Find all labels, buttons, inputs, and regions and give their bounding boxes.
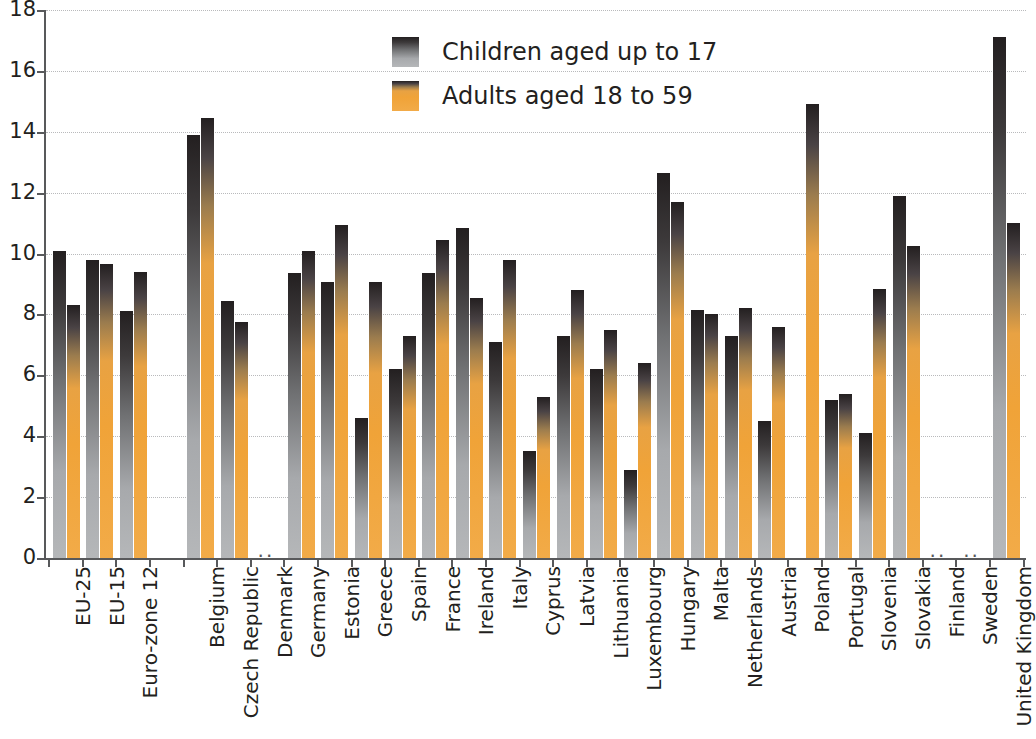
y-axis-tick-label: 0 — [0, 547, 36, 568]
x-axis-label-denmark: Denmark — [275, 566, 295, 658]
legend-swatch-children-icon — [392, 37, 419, 67]
y-axis-tick — [37, 254, 44, 256]
gridline — [46, 132, 1026, 133]
bar-adults — [134, 272, 147, 558]
x-axis-label-malta: Malta — [711, 566, 731, 621]
x-axis-line — [44, 558, 1026, 560]
y-axis-tick — [37, 314, 44, 316]
legend: Children aged up to 17 Adults aged 18 to… — [392, 30, 717, 118]
bar-children — [489, 342, 502, 558]
bar-children — [422, 273, 435, 558]
bar-adults — [369, 282, 382, 558]
x-axis-label-hungary: Hungary — [678, 566, 698, 651]
y-axis-tick-label: 4 — [0, 425, 36, 446]
y-axis-tick-label: 16 — [0, 60, 36, 81]
bar-children — [624, 470, 637, 558]
x-axis-label-lithuania: Lithuania — [611, 566, 631, 659]
bar-children — [389, 369, 402, 558]
bar-children — [725, 336, 738, 558]
x-axis-label-eu-25: EU-25 — [73, 566, 93, 626]
bar-adults — [537, 397, 550, 558]
y-axis-tick-label: 2 — [0, 486, 36, 507]
y-axis-line — [44, 10, 46, 560]
bar-children — [321, 282, 334, 558]
no-data-marker: .. — [258, 544, 275, 556]
y-axis-tick-label: 14 — [0, 121, 36, 142]
legend-label-children: Children aged up to 17 — [442, 39, 717, 65]
bar-adults — [638, 363, 651, 558]
x-axis-label-ireland: Ireland — [476, 566, 496, 635]
x-axis-label-greece: Greece — [375, 566, 395, 637]
bar-children — [590, 369, 603, 558]
no-data-marker: .. — [930, 544, 947, 556]
bar-children — [456, 228, 469, 558]
bar-children — [86, 260, 99, 558]
bar-children — [355, 418, 368, 558]
y-axis-tick — [37, 497, 44, 499]
x-axis-label-eu-15: EU-15 — [107, 566, 127, 626]
bar-adults — [571, 290, 584, 558]
x-axis-label-italy: Italy — [510, 566, 530, 609]
bar-adults — [67, 305, 80, 558]
y-axis-tick-label: 18 — [0, 0, 36, 20]
x-axis-label-united-kingdom: United Kingdom — [1014, 566, 1034, 727]
bar-adults — [671, 202, 684, 558]
bar-adults — [235, 322, 248, 558]
x-axis-label-france: France — [443, 566, 463, 633]
bar-children — [893, 196, 906, 558]
x-axis-label-finland: Finland — [947, 566, 967, 637]
bar-adults — [873, 289, 886, 558]
x-axis-label-sweden: Sweden — [980, 566, 1000, 645]
bar-adults — [907, 246, 920, 558]
bar-children — [523, 451, 536, 558]
legend-label-adults: Adults aged 18 to 59 — [442, 83, 693, 109]
gridline — [46, 10, 1026, 11]
bar-children — [221, 301, 234, 558]
x-axis-category-labels: EU-25EU-15Euro-zone 12BelgiumCzech Repub… — [44, 566, 1026, 739]
y-axis-tick — [37, 558, 44, 560]
x-axis-label-cyprus: Cyprus — [543, 566, 563, 636]
bar-adults — [201, 118, 214, 558]
bar-adults — [839, 394, 852, 558]
bar-children — [657, 173, 670, 558]
y-axis-tick — [37, 375, 44, 377]
bar-adults — [705, 314, 718, 558]
x-axis-label-euro-zone-12: Euro-zone 12 — [140, 566, 160, 698]
bar-adults — [772, 327, 785, 558]
bar-adults — [302, 251, 315, 558]
bar-children — [859, 433, 872, 558]
x-axis-label-slovenia: Slovenia — [879, 566, 899, 651]
bar-adults — [739, 308, 752, 558]
bar-adults — [1007, 223, 1020, 558]
y-axis-tick — [37, 193, 44, 195]
x-axis-label-portugal: Portugal — [846, 566, 866, 649]
x-axis-label-latvia: Latvia — [577, 566, 597, 627]
bar-adults — [335, 225, 348, 558]
bar-children — [557, 336, 570, 558]
y-axis-tick-label: 12 — [0, 182, 36, 203]
bar-children — [691, 310, 704, 558]
x-axis-label-czech-republic: Czech Republic — [241, 566, 261, 718]
bar-adults — [503, 260, 516, 558]
bar-children — [187, 135, 200, 558]
y-axis-tick — [37, 436, 44, 438]
bar-adults — [604, 330, 617, 558]
bar-adults — [436, 240, 449, 558]
bar-adults — [100, 264, 113, 558]
legend-swatch-adults-icon — [392, 81, 419, 111]
y-axis-tick — [37, 132, 44, 134]
legend-item-adults: Adults aged 18 to 59 — [392, 74, 717, 118]
x-axis-label-poland: Poland — [812, 566, 832, 633]
y-axis-tick-label: 10 — [0, 243, 36, 264]
x-axis-label-estonia: Estonia — [342, 566, 362, 640]
x-axis-label-austria: Austria — [779, 566, 799, 637]
x-axis-label-netherlands: Netherlands — [745, 566, 765, 688]
bar-children — [825, 400, 838, 558]
y-axis-tick-label: 6 — [0, 364, 36, 385]
no-data-marker: .. — [963, 544, 980, 556]
y-axis-tick-label: 8 — [0, 303, 36, 324]
legend-item-children: Children aged up to 17 — [392, 30, 717, 74]
x-axis-label-spain: Spain — [409, 566, 429, 622]
bar-children — [288, 273, 301, 558]
